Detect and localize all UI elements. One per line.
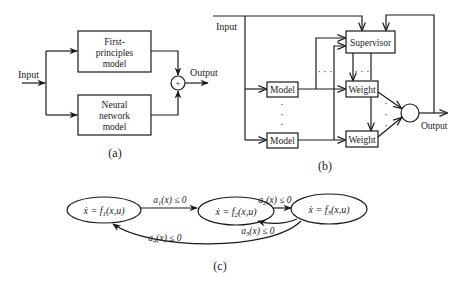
transition-3-to-2-label: a3(x) ≤ 0 — [241, 226, 275, 237]
caption-c: (c) — [213, 259, 226, 273]
panel-a: Input First- principles model Neural net… — [18, 31, 218, 160]
neural-network-line3: model — [103, 122, 127, 132]
weight2-to-combiner — [378, 118, 401, 137]
first-principles-line3: model — [103, 59, 127, 69]
panel-c: ẋ = f1(x,u) ẋ = f2(x,u) ẋ = f3(x,u) a1(x… — [67, 194, 367, 273]
transition-2-to-3-label: a2(x) ≤ 0 — [258, 195, 292, 206]
first-principles-line1: First- — [104, 37, 125, 47]
first-principles-line2: principles — [96, 48, 134, 58]
output-feedback-to-supervisor — [386, 15, 434, 113]
input-label-b: Input — [216, 21, 237, 32]
weight-label-1: Weight — [348, 85, 376, 95]
weight-ellipsis-2: · — [384, 109, 387, 120]
weight-label-2: Weight — [348, 135, 376, 145]
model-label-1: Model — [270, 85, 295, 95]
weight1-to-combiner — [378, 92, 401, 108]
caption-a: (a) — [108, 146, 121, 160]
transition-1-to-2-label: a1(x) ≤ 0 — [153, 195, 187, 206]
output-label-a: Output — [190, 67, 218, 78]
figure-canvas: Input First- principles model Neural net… — [0, 0, 463, 284]
first-principles-to-sum — [151, 51, 178, 75]
supervisor-label: Supervisor — [350, 38, 392, 48]
panel-b: Input Model Model · · · · · · Supervisor… — [213, 15, 448, 173]
input-label-a: Input — [18, 69, 39, 80]
model2-to-supervisor — [334, 46, 345, 140]
horizontal-ellipsis-right: · · · — [355, 66, 370, 77]
combiner-circle-icon — [401, 104, 419, 122]
caption-b: (b) — [318, 159, 332, 173]
horizontal-ellipsis-left: · · · — [318, 66, 333, 77]
model-ellipsis-3: · — [280, 119, 283, 130]
model-label-2: Model — [270, 136, 295, 146]
neural-network-line2: network — [99, 111, 130, 121]
neural-network-line1: Neural — [102, 100, 128, 110]
transition-3-to-1-label: a4(x) ≤ 0 — [148, 233, 182, 244]
output-label-b: Output — [421, 121, 448, 131]
neural-network-to-sum — [151, 91, 178, 115]
sum-symbol: + — [176, 79, 181, 88]
weight-ellipsis-1: · — [384, 98, 387, 109]
